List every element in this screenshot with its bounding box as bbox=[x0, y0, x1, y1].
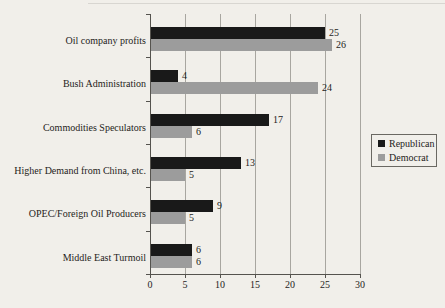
scan-artifact-line bbox=[88, 3, 445, 4]
legend-label: Democrat bbox=[389, 152, 428, 164]
y-axis-tick-5 bbox=[146, 231, 150, 232]
x-tick-label-30: 30 bbox=[350, 279, 370, 291]
value-label: 25 bbox=[329, 27, 339, 39]
y-axis-tick-4 bbox=[146, 187, 150, 188]
democrat-swatch-icon bbox=[378, 154, 385, 161]
gridline-x-25 bbox=[325, 14, 326, 274]
x-tick-5 bbox=[185, 275, 186, 278]
bar-democrat bbox=[150, 169, 185, 181]
bar-republican bbox=[150, 70, 178, 82]
y-axis-tick-1 bbox=[146, 57, 150, 58]
x-tick-label-0: 0 bbox=[140, 279, 160, 291]
value-label: 6 bbox=[196, 244, 201, 256]
category-label: Commodities Speculators bbox=[4, 122, 146, 134]
value-label: 17 bbox=[273, 114, 283, 126]
legend-item-republican: Republican bbox=[378, 138, 436, 150]
value-label: 5 bbox=[189, 169, 194, 181]
bar-democrat bbox=[150, 82, 318, 94]
republican-swatch-icon bbox=[378, 140, 385, 147]
value-label: 9 bbox=[217, 200, 222, 212]
gridline-x-5 bbox=[185, 14, 186, 274]
gridline-x-20 bbox=[290, 14, 291, 274]
gridline-x-30 bbox=[360, 14, 361, 274]
category-label: Bush Administration bbox=[4, 78, 146, 90]
bar-chart: 25264241761359566 Oil company profitsBus… bbox=[0, 0, 445, 308]
x-tick-label-10: 10 bbox=[210, 279, 230, 291]
bar-republican bbox=[150, 157, 241, 169]
category-label: Oil company profits bbox=[4, 35, 146, 47]
legend: RepublicanDemocrat bbox=[371, 134, 437, 167]
bar-democrat bbox=[150, 256, 192, 268]
bar-republican bbox=[150, 200, 213, 212]
x-tick-label-5: 5 bbox=[175, 279, 195, 291]
category-label: OPEC/Foreign Oil Producers bbox=[4, 208, 146, 220]
y-axis-line bbox=[150, 14, 151, 275]
gridline-x-15 bbox=[255, 14, 256, 274]
bar-republican bbox=[150, 27, 325, 39]
value-label: 24 bbox=[322, 82, 332, 94]
value-label: 5 bbox=[189, 212, 194, 224]
value-label: 26 bbox=[336, 39, 346, 51]
x-tick-15 bbox=[255, 275, 256, 278]
x-tick-25 bbox=[325, 275, 326, 278]
y-axis-tick-6 bbox=[146, 274, 150, 275]
x-tick-label-15: 15 bbox=[245, 279, 265, 291]
x-tick-0 bbox=[150, 275, 151, 278]
x-tick-label-20: 20 bbox=[280, 279, 300, 291]
bar-republican bbox=[150, 114, 269, 126]
bar-democrat bbox=[150, 212, 185, 224]
x-tick-10 bbox=[220, 275, 221, 278]
category-label: Middle East Turmoil bbox=[4, 252, 146, 264]
y-axis-tick-2 bbox=[146, 101, 150, 102]
y-axis-tick-3 bbox=[146, 144, 150, 145]
x-tick-20 bbox=[290, 275, 291, 278]
gridline-x-10 bbox=[220, 14, 221, 274]
plot-area: 25264241761359566 bbox=[150, 14, 360, 274]
x-axis-line bbox=[146, 274, 361, 275]
legend-item-democrat: Democrat bbox=[378, 152, 436, 164]
value-label: 4 bbox=[182, 70, 187, 82]
value-label: 6 bbox=[196, 126, 201, 138]
x-tick-label-25: 25 bbox=[315, 279, 335, 291]
value-label: 6 bbox=[196, 256, 201, 268]
category-label: Higher Demand from China, etc. bbox=[4, 165, 146, 177]
legend-label: Republican bbox=[389, 138, 435, 150]
bar-democrat bbox=[150, 39, 332, 51]
value-label: 13 bbox=[245, 157, 255, 169]
bar-republican bbox=[150, 244, 192, 256]
y-axis-tick-0 bbox=[146, 14, 150, 15]
x-tick-30 bbox=[360, 275, 361, 278]
bar-democrat bbox=[150, 126, 192, 138]
